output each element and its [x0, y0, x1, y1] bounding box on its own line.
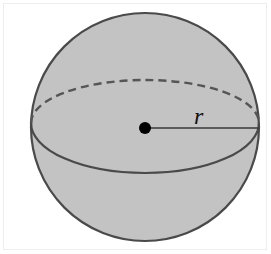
sphere-figure: r	[0, 0, 271, 254]
radius-label: r	[194, 103, 204, 129]
sphere-diagram: r	[0, 0, 271, 254]
center-dot	[139, 122, 151, 134]
